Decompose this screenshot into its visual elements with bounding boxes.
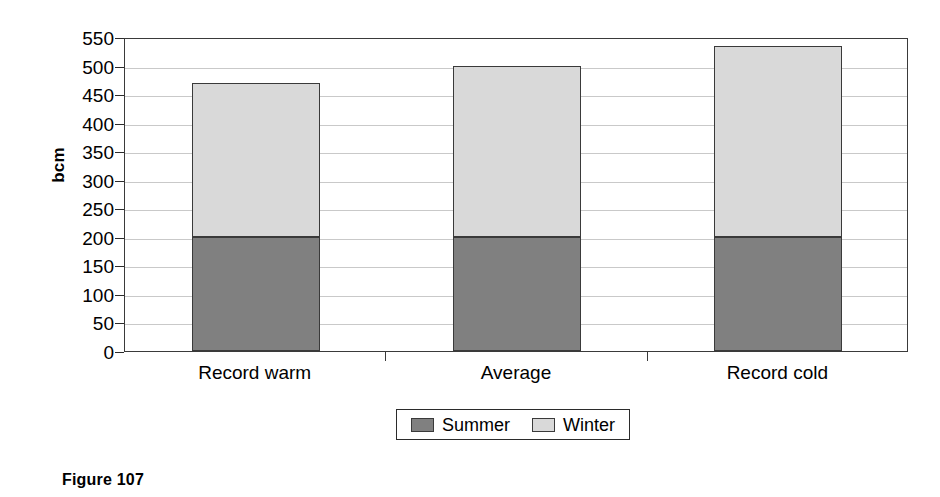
y-tick-label: 100 [58, 286, 114, 305]
y-tick-mark [115, 238, 124, 239]
y-tick-mark [115, 95, 124, 96]
y-tick-label: 350 [58, 143, 114, 162]
y-tick-label: 400 [58, 115, 114, 134]
bar-group[interactable] [714, 37, 842, 351]
x-category-label: Record warm [125, 362, 385, 384]
y-tick-mark [115, 38, 124, 39]
y-tick-mark [115, 209, 124, 210]
y-tick-mark [115, 152, 124, 153]
y-tick-label: 150 [58, 257, 114, 276]
bars-layer [125, 39, 907, 351]
bar-segment-summer[interactable] [453, 237, 581, 351]
legend-swatch-winter [532, 418, 555, 432]
bar-segment-summer[interactable] [192, 237, 320, 351]
x-category-label: Average [386, 362, 646, 384]
legend-entry[interactable]: Winter [532, 416, 615, 434]
y-tick-mark [115, 266, 124, 267]
x-tick-mark [647, 352, 648, 361]
y-tick-label: 200 [58, 229, 114, 248]
figure-container: bcm 550500450400350300250200150100500 Re… [0, 0, 940, 497]
y-tick-mark [115, 67, 124, 68]
y-tick-label: 0 [58, 343, 114, 362]
bar-segment-winter[interactable] [192, 83, 320, 237]
y-tick-mark [115, 295, 124, 296]
bar-segment-winter[interactable] [453, 66, 581, 237]
legend-swatch-summer [411, 418, 434, 432]
y-tick-label: 250 [58, 200, 114, 219]
y-tick-label: 500 [58, 58, 114, 77]
x-tick-mark [385, 352, 386, 361]
bar-group[interactable] [453, 37, 581, 351]
y-tick-label: 450 [58, 86, 114, 105]
bar-segment-winter[interactable] [714, 46, 842, 237]
legend-entry[interactable]: Summer [411, 416, 510, 434]
y-axis-tick-labels: 550500450400350300250200150100500 [58, 30, 114, 360]
y-tick-label: 550 [58, 29, 114, 48]
y-tick-label: 300 [58, 172, 114, 191]
y-tick-label: 50 [58, 314, 114, 333]
y-tick-mark [115, 323, 124, 324]
y-tick-mark [115, 181, 124, 182]
y-tick-mark [115, 124, 124, 125]
figure-caption: Figure 107 [62, 471, 144, 489]
legend-label: Summer [442, 416, 510, 434]
y-tick-mark [115, 352, 124, 353]
legend-label: Winter [563, 416, 615, 434]
bar-segment-summer[interactable] [714, 237, 842, 351]
bar-group[interactable] [192, 37, 320, 351]
x-category-label: Record cold [647, 362, 907, 384]
chart-legend: SummerWinter [396, 409, 630, 440]
plot-area [124, 38, 908, 352]
